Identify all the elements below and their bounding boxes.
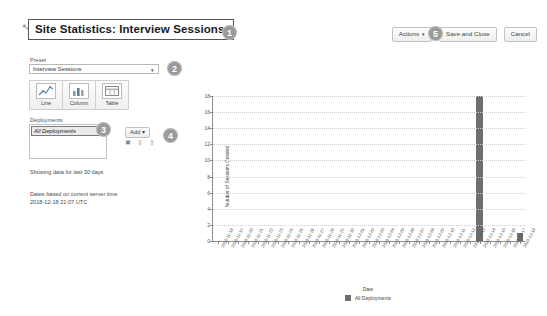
bar-chart-icon	[69, 83, 89, 99]
chart-type-line-button[interactable]: Line	[29, 80, 63, 110]
y-tick-mark	[210, 144, 213, 145]
x-tick-mark	[439, 241, 440, 244]
chart-bar[interactable]	[476, 96, 482, 241]
y-tick-mark	[210, 225, 213, 226]
server-time-line1: Dates based on current server time	[30, 190, 117, 198]
preset-value: Interview Sessions	[33, 66, 81, 72]
chart-gridline	[213, 112, 525, 113]
add-button[interactable]: Add ▾	[125, 127, 150, 138]
chart-type-table-label: Table	[106, 100, 119, 106]
server-time-line2: 2018-12-18 21:07 UTC	[30, 198, 117, 206]
x-tick-mark	[278, 241, 279, 244]
y-tick-label: 10	[204, 157, 210, 163]
x-tick-mark	[329, 241, 330, 244]
x-tick-mark	[460, 241, 461, 244]
x-tick-mark	[389, 241, 390, 244]
x-tick-mark	[359, 241, 360, 244]
x-tick-mark	[218, 241, 219, 244]
chart-gridline	[213, 225, 525, 226]
chart-gridline	[213, 193, 525, 194]
x-tick-mark	[429, 241, 430, 244]
line-chart-icon	[36, 83, 56, 99]
x-tick-mark	[268, 241, 269, 244]
annotation-badge-3: 3	[96, 122, 111, 137]
chart-gridline	[213, 144, 525, 145]
legend-swatch	[345, 295, 351, 301]
actions-label: Actions	[399, 30, 419, 37]
y-tick-label: 2	[207, 222, 210, 228]
delete-icon[interactable]: ✖	[125, 139, 131, 147]
x-tick-mark	[309, 241, 310, 244]
x-tick-mark	[228, 241, 229, 244]
x-tick-mark	[319, 241, 320, 244]
chart-gridline	[213, 209, 525, 210]
x-tick-mark	[500, 241, 501, 244]
y-tick-mark	[210, 160, 213, 161]
y-tick-label: 4	[207, 206, 210, 212]
y-tick-label: 14	[204, 125, 210, 131]
x-tick-mark	[258, 241, 259, 244]
annotation-badge-1: 1	[222, 25, 237, 40]
chart-legend: All Deployments	[212, 295, 524, 301]
y-tick-label: 6	[207, 190, 210, 196]
y-tick-mark	[210, 241, 213, 242]
x-tick-mark	[369, 241, 370, 244]
x-tick-mark	[248, 241, 249, 244]
x-tick-mark	[339, 241, 340, 244]
chart-type-column-button[interactable]: Column	[62, 80, 96, 110]
chevron-down-icon: ▾	[142, 129, 145, 135]
x-axis-label: Date	[212, 286, 524, 292]
deployments-label: Deployments	[30, 117, 63, 123]
chart-gridline	[213, 177, 525, 178]
y-tick-label: 18	[204, 93, 210, 99]
chart-type-table-button[interactable]: Table	[95, 80, 129, 110]
y-tick-mark	[210, 112, 213, 113]
save-and-close-button[interactable]: Save and Close	[439, 27, 497, 42]
x-tick-mark	[419, 241, 420, 244]
list-item[interactable]: All Deployments	[31, 126, 105, 136]
annotation-badge-4: 4	[163, 128, 178, 143]
x-tick-mark	[480, 241, 481, 244]
chart-gridline	[213, 160, 525, 161]
x-tick-mark	[409, 241, 410, 244]
y-tick-mark	[210, 128, 213, 129]
chevron-down-icon: ▾	[148, 66, 156, 74]
y-tick-label: 0	[207, 238, 210, 244]
server-time-note: Dates based on current server time 2018-…	[30, 190, 117, 206]
preset-select[interactable]: Interview Sessions ▾	[29, 64, 159, 74]
x-tick-mark	[470, 241, 471, 244]
x-tick-mark	[399, 241, 400, 244]
actions-button[interactable]: Actions▾	[392, 27, 432, 42]
y-tick-label: 8	[207, 174, 210, 180]
preset-label: Preset	[30, 57, 46, 63]
y-tick-label: 12	[204, 141, 210, 147]
chart-bars	[213, 96, 525, 241]
y-tick-mark	[210, 177, 213, 178]
statistics-chart: Number of Sessions Created 0246810121416…	[186, 90, 538, 315]
y-tick-label: 16	[204, 109, 210, 115]
x-tick-mark	[520, 241, 521, 244]
x-tick-mark	[299, 241, 300, 244]
toolbar: Actions▾ Save and Close Cancel	[392, 27, 537, 42]
chevron-down-icon: ▾	[422, 31, 425, 37]
chart-gridline	[213, 96, 525, 97]
site-statistics-window: ↖ Site Statistics: Interview Sessions Ac…	[0, 0, 547, 316]
cancel-button[interactable]: Cancel	[504, 27, 537, 42]
x-tick-mark	[238, 241, 239, 244]
data-range-note: Showing data for last 30 days	[30, 168, 103, 176]
legend-label: All Deployments	[355, 295, 391, 301]
x-tick-mark	[288, 241, 289, 244]
annotation-badge-5: 5	[428, 26, 443, 41]
x-tick-mark	[349, 241, 350, 244]
x-tick-mark	[510, 241, 511, 244]
y-tick-mark	[210, 193, 213, 194]
move-up-icon[interactable]: ⇧	[149, 139, 155, 147]
chart-gridline	[213, 128, 525, 129]
x-tick-mark	[450, 241, 451, 244]
y-tick-mark	[210, 209, 213, 210]
row-action-icons: ✖ ⇩ ⇧	[125, 139, 155, 147]
move-down-icon[interactable]: ⇩	[137, 139, 143, 147]
x-tick-mark	[490, 241, 491, 244]
chart-type-line-label: Line	[41, 100, 51, 106]
chart-type-column-label: Column	[70, 100, 89, 106]
